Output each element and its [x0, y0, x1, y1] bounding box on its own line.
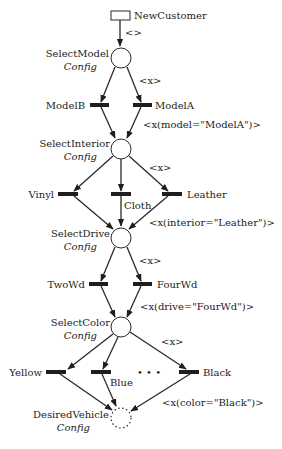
arc-label-color-in: <x>	[161, 336, 183, 347]
edge-twowd-selectcolor	[101, 286, 115, 317]
place-selectinterior	[111, 139, 131, 159]
arc-label-drive-in: <x>	[139, 255, 161, 266]
transition-blue	[91, 370, 111, 374]
transition-label-fourwd: FourWd	[157, 279, 198, 290]
transition-label-cloth: Cloth	[124, 200, 152, 211]
place-type-selectdrive: Config	[64, 241, 97, 252]
place-desiredvehicle	[111, 408, 131, 428]
edge-selectdrive-twowd	[101, 247, 115, 281]
place-type-selectinterior: Config	[64, 151, 97, 162]
place-type-selectcolor: Config	[64, 330, 97, 341]
transition-label-modela: ModelA	[155, 100, 195, 111]
arc-label-drive-out: <x(drive="FourWd")>	[140, 301, 254, 312]
transition-twowd	[89, 282, 108, 286]
transition-label-vinyl: Vinyl	[27, 189, 54, 200]
petri-net-diagram: NewCustomer <> SelectModel Config <x> Mo…	[0, 0, 282, 449]
transition-label-black: Black	[203, 367, 232, 378]
place-type-desiredvehicle: Config	[57, 422, 90, 433]
edge-fourwd-selectcolor	[127, 286, 141, 317]
start-box	[111, 11, 130, 20]
transition-vinyl	[58, 192, 78, 196]
transition-modela	[133, 103, 152, 107]
place-selectdrive	[111, 228, 131, 248]
transition-yellow	[46, 370, 66, 374]
arc-label-model-out: <x(model="ModelA")>	[143, 119, 261, 130]
transition-ellipsis: • • •	[137, 367, 161, 378]
transition-label-blue: Blue	[110, 377, 133, 388]
transition-label-yellow: Yellow	[8, 367, 42, 378]
arc-label-color-out: <x(color="Black")>	[162, 397, 264, 408]
transition-modelb	[90, 103, 109, 107]
arc-label-model-in: <x>	[139, 75, 161, 86]
place-label-selectinterior: SelectInterior	[39, 138, 110, 149]
transition-fourwd	[133, 282, 152, 286]
place-label-desiredvehicle: DesiredVehicle	[33, 409, 109, 420]
start-label: NewCustomer	[134, 10, 207, 21]
transition-label-modelb: ModelB	[46, 100, 85, 111]
edge-vinyl-selectdrive	[74, 196, 113, 229]
place-selectmodel	[111, 48, 131, 68]
edge-modela-selectinterior	[127, 107, 141, 138]
transition-cloth	[111, 192, 131, 196]
edge-modelb-selectinterior	[101, 107, 115, 138]
place-type-selectmodel: Config	[64, 61, 97, 72]
edge-selectmodel-modelb	[101, 67, 115, 102]
edge-selectcolor-blue	[103, 337, 118, 369]
transition-label-twowd: TwoWd	[47, 279, 85, 290]
transition-leather	[162, 192, 182, 196]
arc-label-interior-out: <x(interior="Leather")>	[149, 217, 275, 228]
arc-label-interior-in: <x>	[149, 162, 171, 173]
transition-black	[179, 370, 199, 374]
place-selectcolor	[111, 317, 131, 337]
place-label-selectdrive: SelectDrive	[51, 228, 110, 239]
arc-label-start-out: <>	[125, 27, 142, 38]
place-label-selectmodel: SelectModel	[46, 48, 109, 59]
place-label-selectcolor: SelectColor	[51, 317, 110, 328]
transition-label-leather: Leather	[187, 189, 227, 200]
